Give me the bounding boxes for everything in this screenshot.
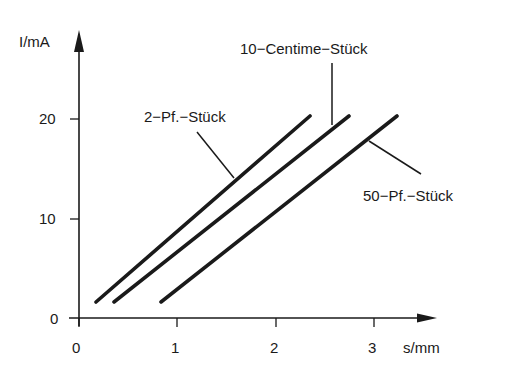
chart: I/mA 20 10 0 0 1 2 3 s/mm 2−Pf.−Stück 10… [0, 0, 516, 373]
x-tick-0: 0 [72, 339, 80, 356]
label-10centime: 10−Centime−Stück [240, 40, 368, 57]
leader-2pf [197, 132, 234, 178]
y-axis-label: I/mA [19, 33, 50, 50]
leader-50pf [369, 141, 421, 174]
label-50pf: 50−Pf.−Stück [363, 187, 454, 204]
y-tick-0: 0 [50, 310, 58, 327]
label-2pf: 2−Pf.−Stück [144, 108, 226, 125]
x-tick-1: 1 [171, 339, 179, 356]
y-axis-arrow-icon [74, 30, 84, 52]
series-10centime-line [114, 116, 349, 302]
x-tick-2: 2 [270, 339, 278, 356]
y-axis: I/mA 20 10 0 [19, 30, 84, 327]
x-tick-3: 3 [368, 339, 376, 356]
series-lines [96, 116, 397, 302]
x-axis: 0 1 2 3 s/mm [69, 314, 440, 357]
y-tick-20: 20 [39, 110, 56, 127]
leader-lines [197, 63, 421, 178]
y-tick-10: 10 [39, 210, 56, 227]
x-axis-arrow-icon [417, 314, 437, 323]
x-axis-label: s/mm [403, 339, 440, 356]
